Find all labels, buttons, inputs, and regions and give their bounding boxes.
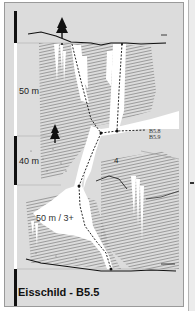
topo-frame: 50 m 40 m 50 m / 3+ 4 B5.8 B5.9 Eisschil… [4,2,184,307]
pitch-2-label: 40 m [19,156,39,166]
page-edge-tick [190,182,194,184]
pitch-1-label: 50 m [19,86,39,96]
page-edge [188,0,195,311]
route-ref-b59: B5.9 [149,134,161,141]
lower-right-rock [101,151,179,269]
topo-diagram [5,3,184,307]
tree-icon [56,17,68,38]
grade-label: 4 [114,156,118,165]
pitch-3-label: 50 m / 3+ [36,213,74,223]
topo-title: Eisschild - B5.5 [18,286,99,298]
